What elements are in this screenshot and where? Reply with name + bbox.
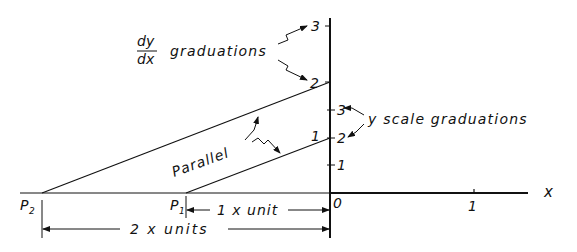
dydx-denominator: dx [137,51,155,67]
p1-label: P [170,197,179,213]
dydx-label-1: 1 [311,128,320,144]
y-label-3: 3 [337,102,346,118]
leader-parallel-lower [252,138,280,153]
dydx-label-2: 2 [310,75,319,91]
dydx-numerator: dy [137,33,155,49]
y-scale-graduations-label: y scale graduations [367,111,528,127]
one-x-unit-label: 1 x unit [217,202,278,218]
p2-subscript: 2 [29,206,35,216]
diagram-canvas: dy dx graduations 3 2 1 3 2 1 y scale gr… [0,0,577,252]
dydx-label-3: 3 [311,18,320,34]
leader-y-2 [348,124,364,137]
x-tick-1-label: 1 [468,198,477,214]
p2-label: P [20,197,29,213]
leader-dydx-3 [278,26,307,44]
y-label-1: 1 [337,157,346,173]
x-axis-label: x [543,183,553,201]
line-p2 [42,82,330,193]
origin-label: 0 [333,195,342,211]
leader-dydx-2 [278,60,307,80]
p1-subscript: 1 [179,206,185,216]
dydx-graduations-label: graduations [170,43,267,59]
parallel-label: Parallel [170,144,232,179]
y-label-2: 2 [337,130,346,146]
two-x-units-label: 2 x units [130,221,209,237]
leader-parallel-upper [245,117,258,140]
leader-y-3 [344,108,364,115]
